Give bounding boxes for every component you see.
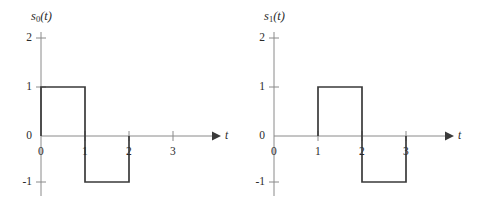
signal-waveform-figure: s0(t) 2 1 0 -1 0 1 2 3 t (0, 0, 479, 210)
plot-panel-s1: s1(t) 2 1 0 -1 0 1 2 3 t (240, 0, 479, 210)
plot-panel-s0: s0(t) 2 1 0 -1 0 1 2 3 t (0, 0, 239, 210)
y-tick-label-0: 0 (249, 130, 265, 142)
x-axis-arrow-icon (445, 132, 454, 141)
x-tick-label-1: 1 (82, 146, 96, 158)
x-tick-label-2: 2 (359, 146, 373, 158)
y-tick-label-neg1: -1 (16, 176, 32, 188)
x-tick-label-1: 1 (315, 146, 329, 158)
plot-canvas-s0 (0, 0, 239, 210)
signal-trace-s1 (318, 87, 406, 182)
x-tick-label-2: 2 (126, 146, 140, 158)
signal-trace-s0 (41, 87, 129, 182)
x-tick-label-3: 3 (403, 146, 417, 158)
y-tick-label-2: 2 (16, 32, 32, 44)
plot-title-argument: (t) (40, 9, 52, 23)
y-tick-label-1: 1 (249, 81, 265, 93)
plot-title-argument: (t) (273, 9, 285, 23)
x-tick-label-0: 0 (271, 146, 285, 158)
y-tick-label-0: 0 (16, 130, 32, 142)
x-tick-label-0: 0 (38, 146, 52, 158)
y-tick-label-neg1: -1 (249, 176, 265, 188)
x-axis-variable-label: t (458, 130, 461, 142)
x-axis-arrow-icon (212, 132, 221, 141)
plot-title-s1: s1(t) (264, 10, 285, 24)
x-tick-label-3: 3 (170, 146, 184, 158)
plot-canvas-s1 (240, 0, 479, 210)
plot-title-s0: s0(t) (31, 10, 52, 24)
y-tick-label-2: 2 (249, 32, 265, 44)
x-axis-variable-label: t (225, 130, 228, 142)
y-tick-label-1: 1 (16, 81, 32, 93)
